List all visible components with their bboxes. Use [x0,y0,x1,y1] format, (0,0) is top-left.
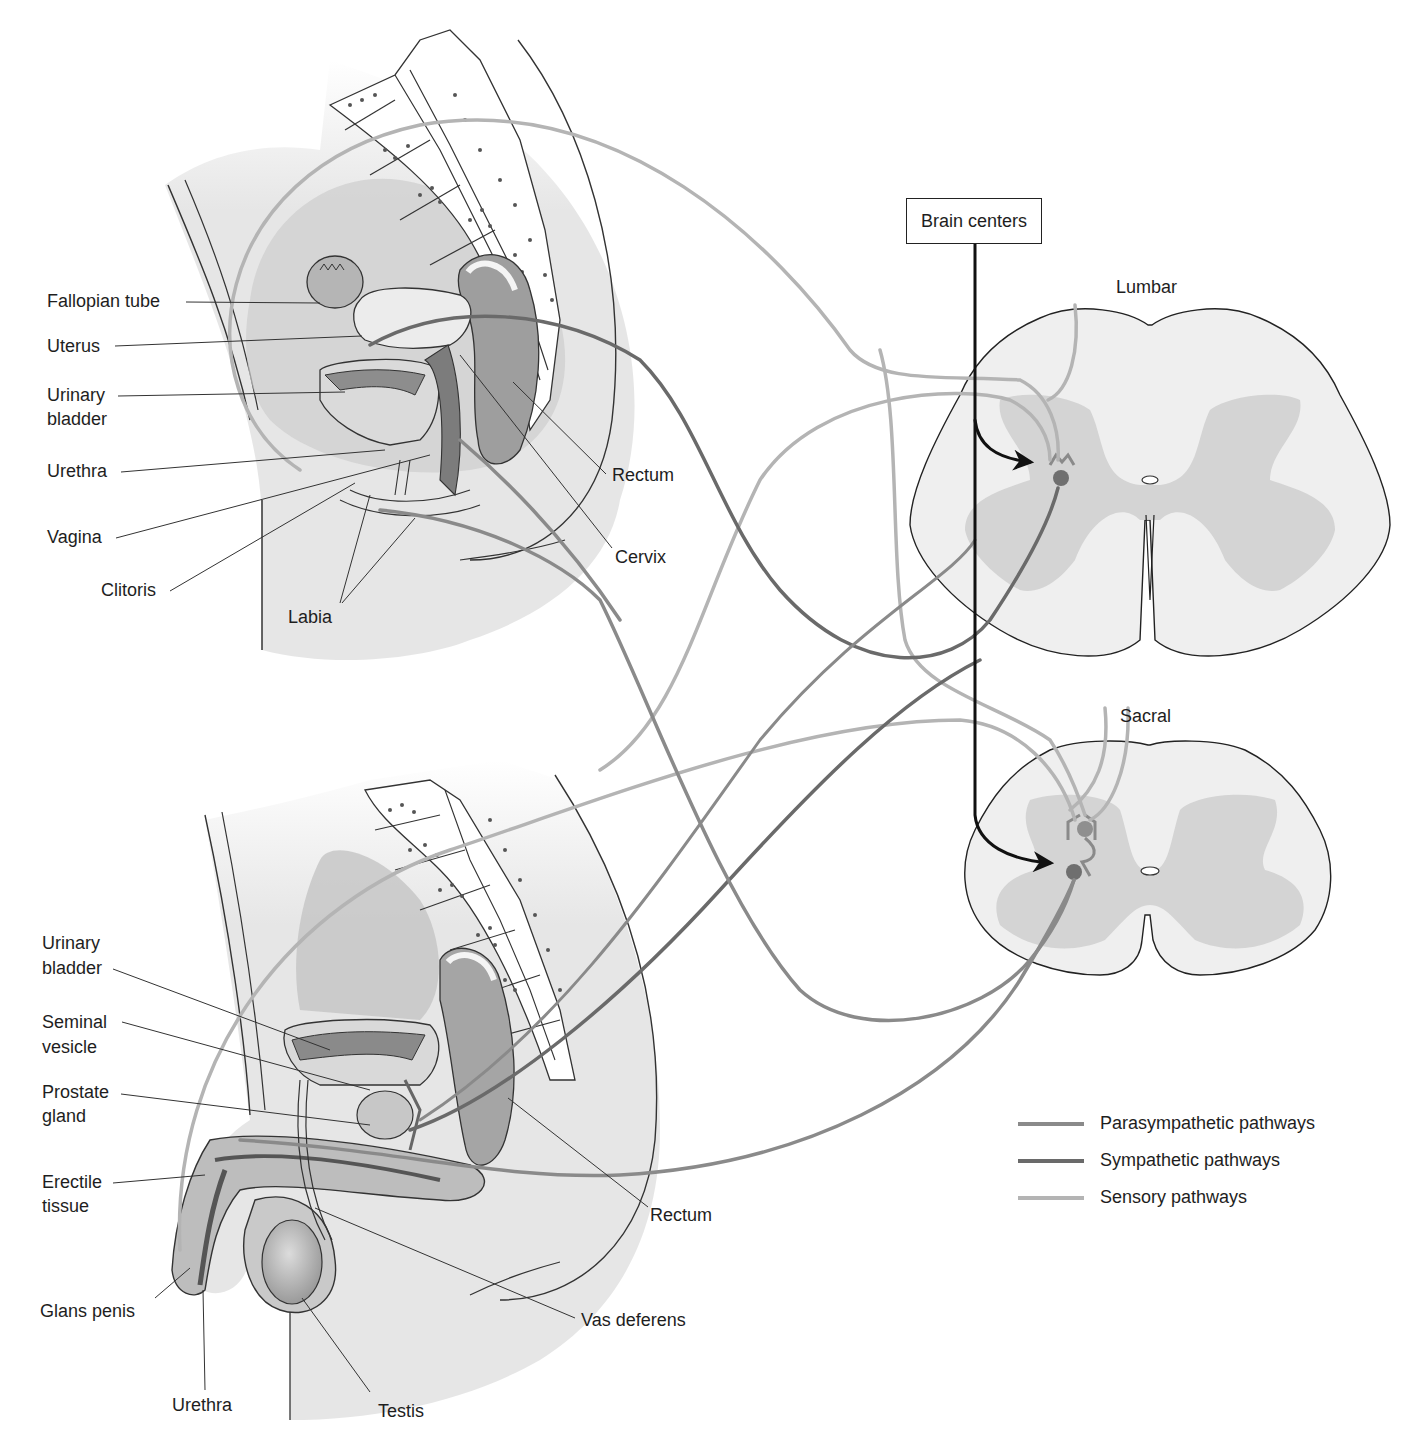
label-erectile-2: tissue [42,1195,89,1218]
legend-label-parasympathetic: Parasympathetic pathways [1100,1113,1315,1134]
female-pelvis-illustration [165,30,635,660]
label-vagina: Vagina [47,526,102,549]
parasympathetic-swatch [1018,1122,1084,1126]
brain-centers-box: Brain centers [906,198,1042,244]
label-urinary-bladder-f1: Urinary [47,384,105,407]
label-urinary-bladder-m2: bladder [42,957,102,980]
label-glans-penis: Glans penis [40,1300,135,1323]
sacral-label: Sacral [1120,705,1171,728]
label-rectum-m: Rectum [650,1204,712,1227]
label-vas-deferens: Vas deferens [581,1309,686,1332]
neuron-soma [1053,470,1069,486]
label-seminal-vesicle-1: Seminal [42,1011,107,1034]
legend-item-sympathetic: Sympathetic pathways [1018,1142,1315,1179]
label-urinary-bladder-f2: bladder [47,408,107,431]
label-testis: Testis [378,1400,424,1423]
legend-item-sensory: Sensory pathways [1018,1179,1315,1216]
lumbar-cord-section [910,309,1390,656]
label-prostate-2: gland [42,1105,86,1128]
label-labia: Labia [288,606,332,629]
lumbar-label: Lumbar [1116,276,1177,299]
label-seminal-vesicle-2: vesicle [42,1036,97,1059]
legend-item-parasympathetic: Parasympathetic pathways [1018,1105,1315,1142]
brain-centers-label: Brain centers [921,211,1027,232]
legend: Parasympathetic pathways Sympathetic pat… [1018,1105,1315,1216]
label-urethra-f: Urethra [47,460,107,483]
label-urethra-m: Urethra [172,1394,232,1417]
label-cervix: Cervix [615,546,666,569]
sensory-swatch [1018,1196,1084,1200]
label-urinary-bladder-m1: Urinary [42,932,100,955]
label-erectile-1: Erectile [42,1171,102,1194]
label-rectum-f: Rectum [612,464,674,487]
label-uterus: Uterus [47,335,100,358]
label-prostate-1: Prostate [42,1081,109,1104]
legend-label-sensory: Sensory pathways [1100,1187,1247,1208]
label-fallopian-tube: Fallopian tube [47,290,160,313]
label-clitoris: Clitoris [101,579,156,602]
sympathetic-swatch [1018,1159,1084,1163]
legend-label-sympathetic: Sympathetic pathways [1100,1150,1280,1171]
